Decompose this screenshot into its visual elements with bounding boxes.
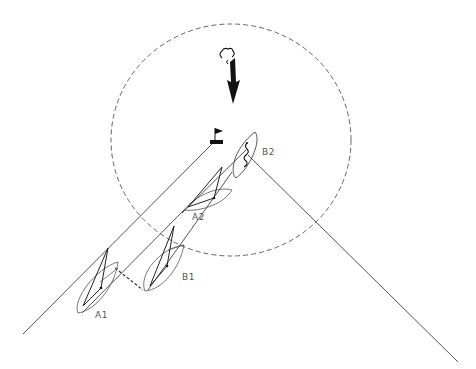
boat-a2	[184, 167, 232, 210]
track-line-b-bow	[182, 150, 246, 213]
wind-arrow-icon	[220, 48, 240, 104]
boat-b2	[233, 132, 257, 178]
rules-diagram	[0, 0, 476, 369]
flag-mark-icon	[210, 128, 223, 144]
boat-label-b2: B2	[262, 147, 275, 157]
layline-right	[248, 155, 458, 362]
boat-a1	[77, 248, 118, 313]
boat-label-a1: A1	[95, 310, 108, 320]
boat-label-a2: A2	[192, 212, 205, 222]
overlap-line	[115, 268, 143, 290]
boat-label-b1: B1	[182, 272, 195, 282]
layline-left	[23, 141, 215, 334]
